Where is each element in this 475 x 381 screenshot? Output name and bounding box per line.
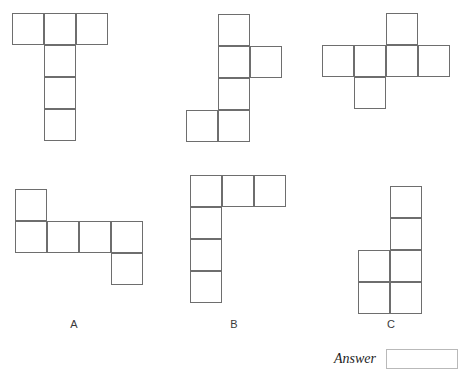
net-square xyxy=(358,250,390,282)
net-square xyxy=(44,109,76,141)
net-square xyxy=(15,221,47,253)
answer-row: Answer xyxy=(334,349,458,369)
net-square xyxy=(190,175,222,207)
net-square xyxy=(111,221,143,253)
net-square xyxy=(418,45,450,77)
net-square xyxy=(218,78,250,110)
net-square xyxy=(250,46,282,78)
option-label-a: A xyxy=(59,318,89,330)
option-label-c: C xyxy=(376,318,406,330)
net-square xyxy=(190,239,222,271)
net-square xyxy=(47,221,79,253)
question-canvas: ABC xyxy=(0,0,475,381)
net-square xyxy=(386,13,418,45)
net-square xyxy=(354,77,386,109)
net-square xyxy=(111,253,143,285)
net-square xyxy=(322,45,354,77)
net-square xyxy=(358,282,390,314)
net-square xyxy=(44,13,76,45)
net-square xyxy=(390,250,422,282)
option-label-b: B xyxy=(219,318,249,330)
net-square xyxy=(218,14,250,46)
net-square xyxy=(354,45,386,77)
answer-input[interactable] xyxy=(386,349,458,369)
net-square xyxy=(186,110,218,142)
net-square xyxy=(254,175,286,207)
net-square xyxy=(390,282,422,314)
net-square xyxy=(76,13,108,45)
net-square xyxy=(190,207,222,239)
net-square xyxy=(390,218,422,250)
net-square xyxy=(218,110,250,142)
net-square xyxy=(390,186,422,218)
answer-label: Answer xyxy=(334,352,376,366)
net-square xyxy=(44,45,76,77)
net-square xyxy=(44,77,76,109)
net-square xyxy=(190,271,222,303)
net-square xyxy=(386,45,418,77)
net-square xyxy=(15,189,47,221)
net-square xyxy=(218,46,250,78)
net-square xyxy=(12,13,44,45)
net-square xyxy=(79,221,111,253)
net-square xyxy=(222,175,254,207)
